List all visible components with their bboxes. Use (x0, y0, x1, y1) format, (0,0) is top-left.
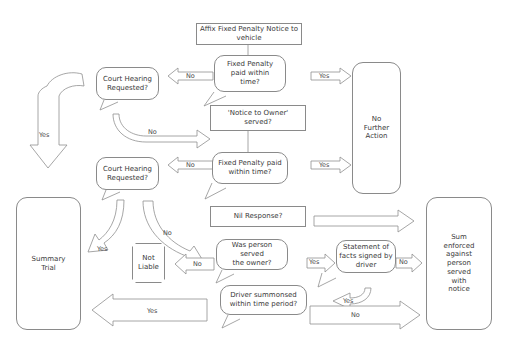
edge-label-driver-yes: Yes (147, 307, 158, 315)
node-court-hearing-2[interactable]: Court Hearing Requested? (96, 157, 159, 190)
node-driver-summonsed-label: Driver summonsed within time period? (230, 291, 298, 309)
edge-label-fp2-yes: Yes (319, 161, 330, 169)
node-sum-enforced[interactable]: Sum enforced against person served with … (426, 197, 492, 330)
arrow-fp1-yes (311, 68, 351, 84)
arrow-nil-to-sum (314, 210, 414, 232)
tail-served (216, 270, 234, 283)
node-not-liable[interactable]: Not Liable (132, 243, 165, 283)
tail-driver (222, 315, 240, 328)
arrow-fp2-yes (311, 157, 351, 173)
node-not-liable-body: Not Liable (132, 243, 165, 283)
node-nil-response[interactable]: Nil Response? (210, 206, 306, 227)
node-court-hearing-2-label: Court Hearing Requested? (103, 165, 152, 183)
edge-label-statement-yes: Yes (343, 297, 354, 305)
node-no-further-action-label: No Further Action (364, 115, 389, 141)
node-was-person-served-label: Was person served the owner? (219, 241, 285, 267)
node-affix-notice[interactable]: Affix Fixed Penalty Notice to vehicle (196, 23, 302, 45)
node-notice-to-owner-label: 'Notice to Owner' served? (213, 109, 303, 127)
edge-label-driver-no: No (351, 311, 360, 319)
node-statement-of-facts[interactable]: Statement of facts signed by driver (336, 240, 396, 273)
edge-label-served-no: No (193, 260, 202, 268)
edge-label-ch2-yes: Yes (97, 245, 108, 253)
node-court-hearing-1[interactable]: Court Hearing Requested? (96, 67, 159, 100)
node-notice-to-owner[interactable]: 'Notice to Owner' served? (210, 105, 306, 131)
node-statement-of-facts-label: Statement of facts signed by driver (339, 243, 392, 269)
node-nil-response-label: Nil Response? (234, 212, 283, 221)
node-fixed-penalty-paid-1[interactable]: Fixed Penalty paid within time? (214, 55, 286, 92)
edge-label-statement-no: No (399, 258, 408, 266)
edge-label-ch2-no: No (163, 229, 172, 237)
edge-label-fp1-no: No (186, 72, 195, 80)
node-affix-notice-label: Affix Fixed Penalty Notice to vehicle (199, 25, 299, 43)
node-fixed-penalty-paid-1-label: Fixed Penalty paid within time? (227, 60, 273, 86)
edge-label-ch1-no: No (148, 128, 157, 136)
node-summary-trial-label: Summary Trial (32, 255, 66, 273)
arrow-ch1-yes (30, 73, 84, 168)
node-fixed-penalty-paid-2[interactable]: Fixed Penalty paid within time? (212, 152, 288, 184)
tail-ch1 (100, 100, 118, 110)
arrow-ch1-no (113, 114, 210, 148)
edge-label-served-yes: Yes (309, 258, 320, 266)
edge-label-fp1-yes: Yes (319, 72, 330, 80)
tail-fp1 (204, 92, 226, 106)
flowchart-canvas: Affix Fixed Penalty Notice to vehicle Fi… (0, 0, 507, 343)
node-court-hearing-1-label: Court Hearing Requested? (103, 75, 152, 93)
node-sum-enforced-label: Sum enforced against person served with … (444, 233, 475, 294)
tail-ch2 (102, 190, 120, 200)
node-fixed-penalty-paid-2-label: Fixed Penalty paid within time? (218, 159, 282, 177)
node-not-liable-label: Not Liable (138, 254, 159, 272)
node-summary-trial[interactable]: Summary Trial (16, 197, 81, 330)
edge-label-ch1-yes: Yes (39, 131, 50, 139)
node-was-person-served[interactable]: Was person served the owner? (216, 239, 288, 270)
arrow-driver-no (310, 301, 420, 329)
tail-fp2 (205, 183, 226, 199)
edge-label-fp2-no: No (186, 161, 195, 169)
node-no-further-action[interactable]: No Further Action (352, 62, 401, 194)
tail-statement (318, 273, 336, 287)
node-driver-summonsed[interactable]: Driver summonsed within time period? (220, 285, 307, 315)
